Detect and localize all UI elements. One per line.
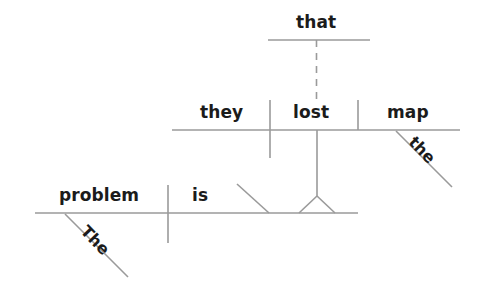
- word-that: that: [296, 14, 336, 31]
- word-problem: problem: [59, 187, 139, 204]
- word-lost: lost: [293, 104, 329, 121]
- pedestal-triangle-right-leg: [317, 196, 335, 213]
- word-is: is: [192, 187, 208, 204]
- pedestal-triangle-left-leg: [299, 196, 317, 213]
- sentence-diagram: that they lost map the problem is The: [0, 0, 480, 296]
- word-map: map: [387, 104, 429, 121]
- word-they: they: [200, 104, 243, 121]
- predicate-nominative-slant: [237, 184, 269, 213]
